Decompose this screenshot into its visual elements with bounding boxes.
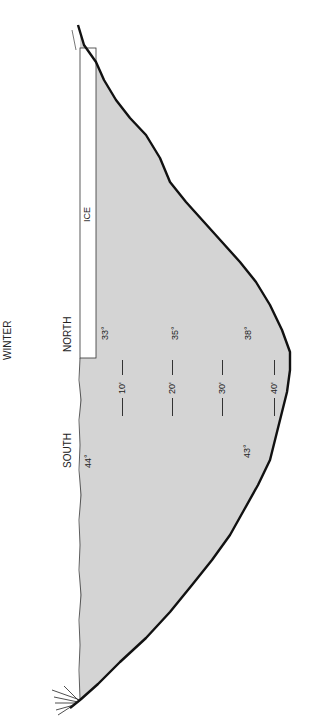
temp-south-44: 44°: [83, 454, 93, 468]
north-label: NORTH: [62, 317, 73, 352]
depth-marker-40: 40': [268, 360, 280, 416]
temp-north-33: 33°: [100, 326, 110, 340]
depth-marker-20: 20': [166, 360, 178, 416]
depth-marker-10: 10': [116, 360, 128, 416]
ice-label: ICE: [82, 207, 92, 222]
temp-south-43: 43°: [242, 444, 252, 458]
south-label: SOUTH: [62, 433, 73, 468]
temp-north-35: 35°: [170, 326, 180, 340]
temp-north-38: 38°: [243, 326, 253, 340]
diagram-title: WINTER: [2, 321, 13, 360]
depth-marker-30: 30': [216, 360, 228, 416]
